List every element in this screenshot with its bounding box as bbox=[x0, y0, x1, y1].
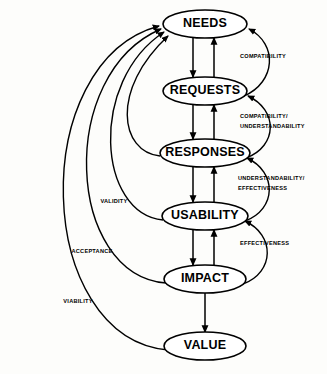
node-requests[interactable]: REQUESTS bbox=[163, 77, 247, 105]
left-edge-labels: VALIDITY ACCEPTANCE VIABILITY bbox=[63, 198, 127, 304]
edge-effectiveness bbox=[243, 221, 267, 284]
edge-label-compatibility-understandability-line2: UNDERSTANDABILITY bbox=[240, 123, 305, 129]
node-value[interactable]: VALUE bbox=[164, 332, 246, 360]
node-usability-label: USABILITY bbox=[171, 208, 239, 222]
edge-label-understandability-effectiveness-line2: EFFECTIVENESS bbox=[238, 185, 287, 191]
node-impact[interactable]: IMPACT bbox=[164, 265, 246, 293]
edge-label-validity: VALIDITY bbox=[100, 198, 127, 204]
edge-label-understandability-effectiveness-line1: UNDERSTANDABILITY/ bbox=[238, 175, 305, 181]
edge-validity bbox=[111, 32, 164, 220]
edge-label-compatibility: COMPATIBILITY bbox=[240, 53, 286, 59]
edge-label-effectiveness: EFFECTIVENESS bbox=[240, 240, 289, 246]
node-usability[interactable]: USABILITY bbox=[162, 202, 248, 230]
edge-acceptance bbox=[87, 29, 166, 283]
edge-label-compatibility-understandability-line1: COMPATIBILITY/ bbox=[240, 113, 288, 119]
flow-diagram: VALIDITY ACCEPTANCE VIABILITY COMPATIBIL… bbox=[0, 0, 327, 374]
node-value-label: VALUE bbox=[184, 338, 226, 352]
edge-label-viability: VIABILITY bbox=[63, 298, 92, 304]
node-responses[interactable]: RESPONSES bbox=[160, 139, 250, 167]
edge-feedback-responses bbox=[127, 36, 168, 156]
node-requests-label: REQUESTS bbox=[170, 83, 240, 97]
edge-label-acceptance: ACCEPTANCE bbox=[72, 248, 113, 254]
node-impact-label: IMPACT bbox=[181, 271, 229, 285]
edge-compatibility bbox=[244, 29, 269, 96]
node-needs[interactable]: NEEDS bbox=[163, 10, 247, 38]
node-responses-label: RESPONSES bbox=[165, 145, 245, 159]
node-needs-label: NEEDS bbox=[183, 16, 227, 30]
diagram-canvas: VALIDITY ACCEPTANCE VIABILITY COMPATIBIL… bbox=[0, 0, 327, 374]
